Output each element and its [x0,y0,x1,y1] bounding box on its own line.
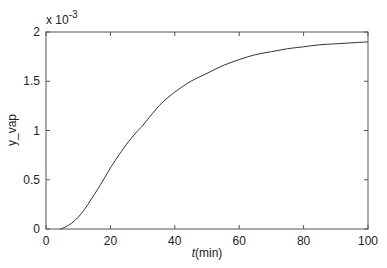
y-tick-label: 0.5 [23,173,40,187]
y-axis-label: y_vap [5,114,19,146]
x-tick-label: 0 [43,234,50,248]
x-axis-label: t(min) [192,246,223,260]
y-tick-label: 1.5 [23,74,40,88]
x-axis-ticks: 020406080100 [43,32,379,248]
x-tick-label: 20 [104,234,118,248]
y-axis-multiplier: x 10-3 [46,9,78,27]
series-line [60,42,368,229]
y-axis-ticks: 00.511.52 [23,25,368,236]
x-tick-label: 100 [358,234,378,248]
x-tick-label: 60 [233,234,247,248]
axes-frame [46,32,368,229]
x-tick-label: 80 [297,234,311,248]
y-tick-label: 2 [33,25,40,39]
line-chart: 020406080100 00.511.52 x 10-3 y_vap t(mi… [0,0,387,268]
x-tick-label: 40 [168,234,182,248]
y-tick-label: 1 [33,124,40,138]
data-series-y-vap [60,42,368,229]
y-tick-label: 0 [33,222,40,236]
